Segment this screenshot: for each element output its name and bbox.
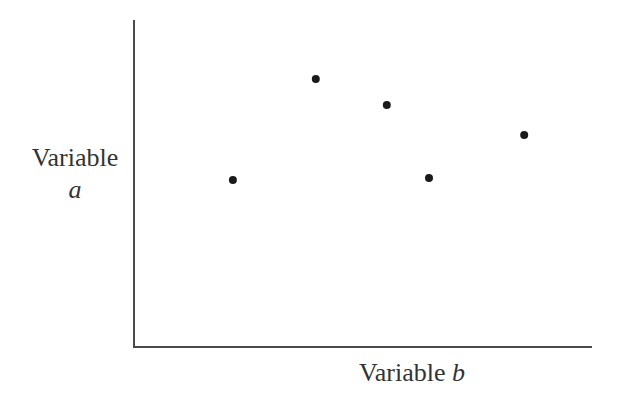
- y-axis-label-word: Variable: [32, 143, 119, 172]
- data-point: [425, 174, 433, 182]
- x-axis-label-var: b: [452, 358, 465, 387]
- data-point: [383, 101, 391, 109]
- data-point: [520, 131, 528, 139]
- data-point: [312, 75, 320, 83]
- y-axis-label-var: a: [20, 174, 130, 206]
- y-axis-label: Variable a: [20, 142, 130, 206]
- data-points: [229, 75, 528, 184]
- data-point: [229, 176, 237, 184]
- x-axis-label-word: Variable: [359, 358, 446, 387]
- x-axis-label: Variable b: [262, 358, 562, 388]
